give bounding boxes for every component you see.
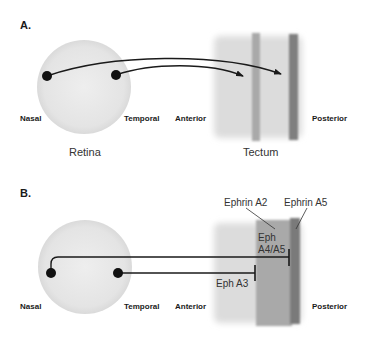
eph-a4a5-label-line1: Eph — [258, 232, 276, 243]
anterior-label: Anterior — [175, 114, 206, 123]
tectum-caption: Tectum — [243, 146, 278, 158]
temporal-label: Temporal — [124, 114, 159, 123]
panel-a-label: A. — [20, 19, 31, 31]
anterior-label-b: Anterior — [175, 302, 206, 311]
retina-b — [38, 220, 132, 314]
tectum-b-ephrin-a5-zone — [290, 218, 300, 324]
retina-a — [37, 40, 131, 134]
tectum-a-ephrin-a5-band — [289, 34, 298, 140]
panel-a: A. Nasal Temporal Anterior Posterior Ret… — [20, 19, 347, 158]
nasal-neuron-dot-b — [46, 268, 56, 278]
ephrin-a2-label: Ephrin A2 — [224, 197, 268, 208]
panel-b-label: B. — [20, 187, 31, 199]
posterior-label-b: Posterior — [312, 302, 347, 311]
ephrin-a5-label: Ephrin A5 — [284, 197, 328, 208]
retinotectal-diagram: A. Nasal Temporal Anterior Posterior Ret… — [0, 0, 368, 339]
nasal-label: Nasal — [20, 114, 41, 123]
temporal-neuron-dot-b — [113, 268, 123, 278]
nasal-neuron-dot — [42, 71, 52, 81]
eph-a3-label: Eph A3 — [216, 278, 249, 289]
eph-a4a5-label-line2: A4/A5 — [258, 244, 286, 255]
panel-b: B. Ephrin A2 Ephrin A5 Eph A4/A5 Eph A3 … — [20, 187, 347, 326]
tectum-a-ephrin-a2-band — [252, 33, 260, 141]
posterior-label: Posterior — [312, 114, 347, 123]
retina-caption: Retina — [69, 146, 102, 158]
nasal-label-b: Nasal — [20, 302, 41, 311]
tectum-a — [214, 33, 302, 141]
temporal-neuron-dot — [111, 70, 121, 80]
temporal-label-b: Temporal — [124, 302, 159, 311]
